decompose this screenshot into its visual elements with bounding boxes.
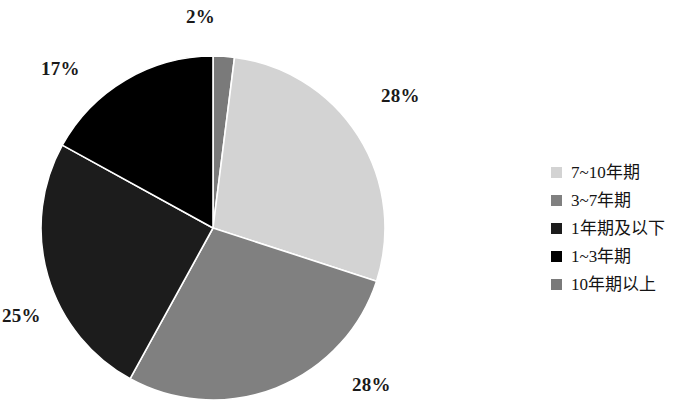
legend-item-label: 1~3年期 <box>571 248 631 265</box>
legend-item-1-3y[interactable]: 1~3年期 <box>551 245 665 267</box>
legend-item-7-10y[interactable]: 7~10年期 <box>551 161 665 183</box>
legend-swatch-icon <box>551 167 562 178</box>
legend-swatch-icon <box>551 223 562 234</box>
chart-legend: 7~10年期 3~7年期 1年期及以下 1~3年期 10年期以上 <box>551 161 665 295</box>
legend-item-label: 7~10年期 <box>571 164 640 181</box>
pie-plot-area: 2% 28% 28% 25% 17% <box>0 0 460 416</box>
pie-chart: 2% 28% 28% 25% 17% 7~10年期 3~7年期 1年期及以下 1… <box>0 0 684 416</box>
legend-item-10y-plus[interactable]: 10年期以上 <box>551 273 665 295</box>
slice-label-7-10y: 28% <box>381 85 420 107</box>
legend-item-label: 1年期及以下 <box>571 220 665 237</box>
slice-label-1y-and-below: 25% <box>2 305 41 327</box>
legend-item-label: 10年期以上 <box>571 276 656 293</box>
legend-swatch-icon <box>551 279 562 290</box>
legend-swatch-icon <box>551 195 562 206</box>
legend-swatch-icon <box>551 251 562 262</box>
legend-item-3-7y[interactable]: 3~7年期 <box>551 189 665 211</box>
pie-slice-group <box>41 56 385 400</box>
legend-item-1y-and-below[interactable]: 1年期及以下 <box>551 217 665 239</box>
slice-label-10y-plus: 2% <box>186 6 215 28</box>
legend-item-label: 3~7年期 <box>571 192 631 209</box>
slice-label-1-3y: 17% <box>41 58 80 80</box>
slice-label-3-7y: 28% <box>352 374 391 396</box>
